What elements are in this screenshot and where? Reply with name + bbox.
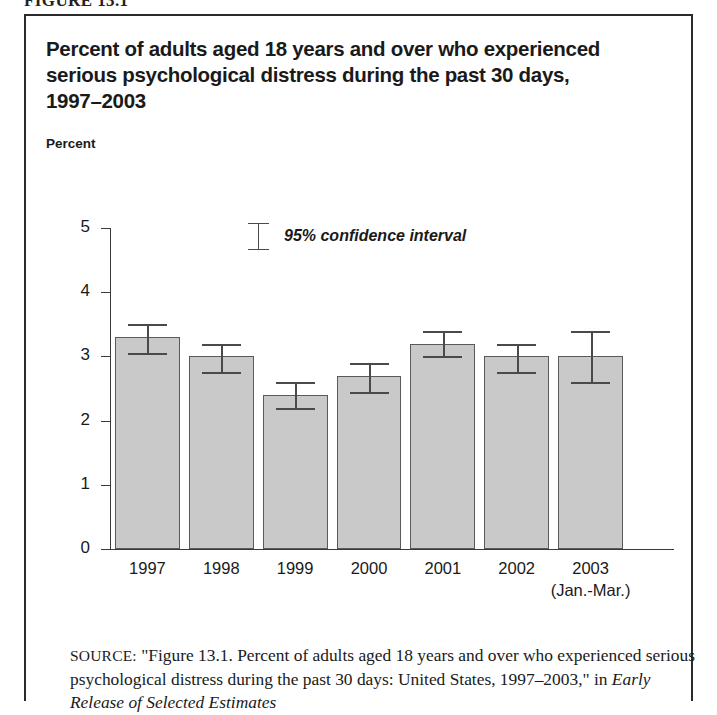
error-bar-cap-lower-1998	[202, 372, 241, 374]
x-axis-tick-label-2003: 2003	[558, 559, 623, 578]
x-axis-tick-label-1998: 1998	[189, 559, 254, 578]
y-axis-tick-label: 5	[62, 217, 90, 237]
y-axis-tick-mark	[101, 292, 110, 293]
error-bar-cap-upper-2000	[350, 363, 389, 365]
bar-2000	[337, 376, 402, 549]
error-bar-cap-lower-2000	[350, 392, 389, 394]
source-note-label: SOURCE:	[70, 647, 137, 664]
source-note-text: "Figure 13.1. Percent of adults aged 18 …	[70, 645, 695, 689]
error-bar-stem-1999	[295, 382, 297, 408]
source-note: SOURCE: "Figure 13.1. Percent of adults …	[70, 644, 700, 715]
error-bar-cap-upper-2001	[423, 331, 462, 333]
legend-label: 95% confidence interval	[284, 227, 466, 245]
error-bar-cap-upper-1997	[128, 324, 167, 326]
figure-panel: Percent of adults aged 18 years and over…	[24, 14, 693, 701]
error-bar-stem-2000	[369, 363, 371, 392]
error-bar-stem-2003	[591, 331, 593, 382]
y-axis-tick-mark	[101, 421, 110, 422]
y-axis-tick-mark	[101, 356, 110, 357]
chart-legend: 95% confidence interval	[248, 221, 466, 251]
error-bar-cap-upper-2002	[497, 344, 536, 346]
error-bar-marker-icon	[248, 221, 270, 251]
bar-2001	[410, 344, 475, 549]
error-bar-cap-upper-1998	[202, 344, 241, 346]
error-bar-stem-2002	[517, 344, 519, 373]
x-axis-line	[110, 549, 674, 550]
y-axis-tick-mark	[101, 549, 110, 550]
error-bar-cap-lower-2002	[497, 372, 536, 374]
error-bar-cap-lower-1999	[276, 408, 315, 410]
error-bar-cap-upper-1999	[276, 382, 315, 384]
x-axis-sublabel-2003: (Jan.-Mar.)	[544, 581, 637, 600]
y-axis-tick-mark	[101, 228, 110, 229]
figure-number: FIGURE 13.1	[24, 0, 129, 11]
bar-1999	[263, 395, 328, 549]
error-bar-cap-lower-2001	[423, 356, 462, 358]
bar-1998	[189, 356, 254, 549]
x-axis-tick-label-2002: 2002	[484, 559, 549, 578]
y-axis-tick-label: 4	[62, 281, 90, 301]
y-axis-tick-label: 0	[62, 538, 90, 558]
plot-area: 0123451997199819992000200120022003(Jan.-…	[26, 16, 695, 616]
y-axis-line	[110, 228, 111, 549]
x-axis-tick-label-1999: 1999	[263, 559, 328, 578]
y-axis-tick-label: 1	[62, 474, 90, 494]
error-bar-stem-1998	[221, 344, 223, 373]
error-bar-cap-lower-1997	[128, 353, 167, 355]
y-axis-tick-label: 3	[62, 345, 90, 365]
x-axis-tick-label-2001: 2001	[410, 559, 475, 578]
y-axis-tick-mark	[101, 485, 110, 486]
bar-1997	[115, 337, 180, 549]
error-bar-cap-upper-2003	[571, 331, 610, 333]
error-bar-stem-1997	[147, 324, 149, 353]
x-axis-tick-label-2000: 2000	[337, 559, 402, 578]
error-bar-cap-lower-2003	[571, 382, 610, 384]
bar-2003	[558, 356, 623, 549]
x-axis-tick-label-1997: 1997	[115, 559, 180, 578]
y-axis-tick-label: 2	[62, 410, 90, 430]
error-bar-stem-2001	[443, 331, 445, 357]
bar-2002	[484, 356, 549, 549]
